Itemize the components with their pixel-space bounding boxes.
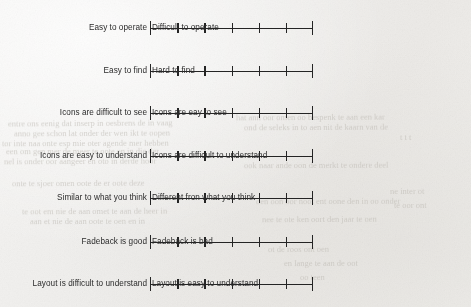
scale-left-label: Icons are easy to understand: [40, 152, 147, 160]
scale-row: Icons are difficult to seeIcons are eay …: [0, 105, 471, 121]
scale-tick[interactable]: [232, 23, 233, 33]
scale-row: Similar to what you thinkDifferent fron …: [0, 190, 471, 206]
scale-end-bar[interactable]: [312, 235, 313, 249]
scale-tick[interactable]: [204, 66, 205, 76]
scale-tick[interactable]: [286, 193, 287, 203]
scale-tick[interactable]: [286, 66, 287, 76]
scale-tick[interactable]: [259, 237, 260, 247]
scale-tick[interactable]: [286, 237, 287, 247]
scale-tick[interactable]: [286, 151, 287, 161]
scale-right-label: Icons are eay to see: [152, 109, 227, 117]
scale-end-bar[interactable]: [312, 64, 313, 78]
scale-row: Easy to operateDifficult to operate: [0, 20, 471, 36]
scale-right-label: Layout is easy to understand: [152, 280, 258, 288]
scale-right-label: Different fron what you think: [152, 194, 255, 202]
scale-tick[interactable]: [232, 66, 233, 76]
scale-end-bar[interactable]: [312, 191, 313, 205]
scale-tick[interactable]: [286, 108, 287, 118]
scale-left-label: Icons are difficult to see: [60, 109, 147, 117]
scale-left-label: Fadeback is good: [82, 238, 147, 246]
scale-left-label: Similar to what you think: [57, 194, 147, 202]
scale-tick[interactable]: [286, 279, 287, 289]
scale-tick[interactable]: [259, 23, 260, 33]
scale-left-label: Easy to find: [104, 67, 147, 75]
scale-tick[interactable]: [232, 108, 233, 118]
scale-tick[interactable]: [286, 23, 287, 33]
scale-row: Icons are easy to understandIcons are di…: [0, 148, 471, 164]
scale-end-bar[interactable]: [312, 21, 313, 35]
scale-end-bar[interactable]: [312, 277, 313, 291]
scale-left-label: Easy to operate: [89, 24, 147, 32]
scale-end-bar[interactable]: [312, 106, 313, 120]
scale-tick[interactable]: [259, 108, 260, 118]
scale-row: Easy to findHard to find: [0, 63, 471, 79]
questionnaire-sheet: Easy to operateDifficult to operateEasy …: [0, 0, 471, 307]
scale-right-label: Difficult to operate: [152, 24, 219, 32]
scale-right-label: Fadeback is bad: [152, 238, 213, 246]
scale-row: Fadeback is goodFadeback is bad: [0, 234, 471, 250]
scale-tick[interactable]: [259, 279, 260, 289]
scale-right-label: Hard to find: [152, 67, 195, 75]
scale-tick[interactable]: [232, 237, 233, 247]
scale-tick[interactable]: [259, 193, 260, 203]
scale-end-bar[interactable]: [312, 149, 313, 163]
scale-right-label: Icons are difficult to understand: [152, 152, 267, 160]
scale-tick[interactable]: [259, 66, 260, 76]
scale-left-label: Layout is difficult to understand: [33, 280, 147, 288]
scale-row: Layout is difficult to understandLayout …: [0, 276, 471, 292]
